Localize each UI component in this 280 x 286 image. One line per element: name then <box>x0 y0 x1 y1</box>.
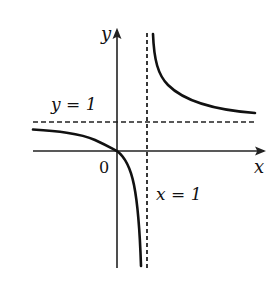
horizontal-asymptote-label: y = 1 <box>50 94 96 114</box>
graph-canvas: y x 0 y = 1 x = 1 <box>0 0 280 286</box>
x-axis-label: x <box>254 156 264 177</box>
origin-label: 0 <box>99 158 109 177</box>
function-graph: y x 0 y = 1 x = 1 <box>0 0 280 286</box>
vertical-asymptote-label: x = 1 <box>156 184 201 204</box>
curve-right-branch <box>153 34 255 113</box>
curve-left-branch <box>33 130 141 267</box>
y-axis-label: y <box>100 23 112 44</box>
